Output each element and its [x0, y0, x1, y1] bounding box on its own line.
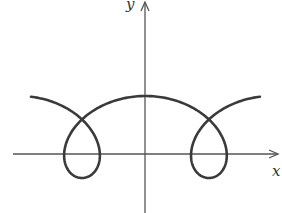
axes: x y: [13, 0, 281, 213]
curve-diagram: x y: [0, 0, 282, 213]
x-axis-label: x: [272, 162, 281, 180]
y-axis-label: y: [125, 0, 135, 13]
